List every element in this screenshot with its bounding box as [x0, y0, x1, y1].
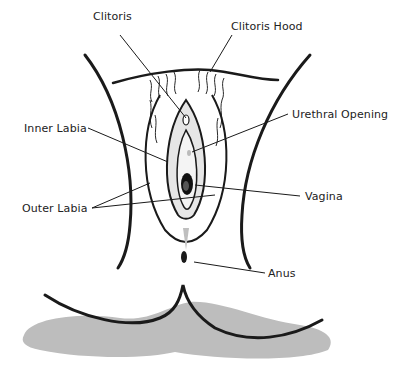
label-inner-labia: Inner Labia [24, 122, 87, 135]
ground-shadow [23, 302, 331, 359]
vaginal-opening-highlight [183, 181, 189, 191]
anus-mark [181, 251, 187, 263]
leader-clitoris [120, 35, 186, 118]
urethral-opening-dot [187, 150, 191, 156]
perineum-shade [183, 228, 189, 250]
leader-urethral-opening [192, 114, 288, 152]
pubic-line [113, 70, 278, 83]
anatomy-illustration [0, 0, 408, 378]
label-vagina: Vagina [305, 190, 343, 203]
left-thigh-outline [85, 55, 131, 268]
label-urethral-opening: Urethral Opening [292, 108, 388, 121]
anatomy-diagram: Clitoris Clitoris Hood Urethral Opening … [0, 0, 408, 378]
label-outer-labia: Outer Labia [22, 202, 87, 215]
leader-anus [194, 262, 265, 273]
clitoris-glans [183, 115, 189, 125]
right-thigh-outline [242, 55, 310, 268]
label-clitoris: Clitoris [93, 10, 132, 23]
label-clitoris-hood: Clitoris Hood [231, 20, 303, 33]
leader-vagina [195, 185, 300, 196]
leader-outer-labia-1 [92, 183, 150, 208]
label-anus: Anus [268, 267, 296, 280]
leader-clitoris-hood [210, 35, 232, 72]
